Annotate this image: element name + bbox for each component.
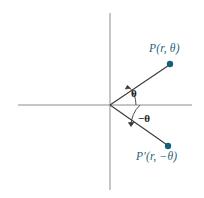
angle-label-theta-text: θ (131, 87, 137, 99)
point-label-p-prime-text: P′(r, −θ) (136, 150, 177, 162)
point-label-p: P(r, θ) (149, 43, 180, 55)
angle-arc-theta-arrowhead (125, 86, 130, 90)
point-label-p-prime: P′(r, −θ) (136, 151, 177, 163)
polar-coordinates-figure: P(r, θ) P′(r, −θ) θ −θ (0, 0, 204, 198)
angle-label-negative-theta: −θ (138, 113, 150, 124)
diagram-canvas (0, 0, 204, 198)
angle-label-theta: θ (131, 88, 137, 99)
point-marker-p (167, 61, 173, 67)
point-label-p-text: P(r, θ) (149, 42, 180, 54)
angle-label-negative-theta-text: −θ (138, 112, 150, 124)
point-marker-p-prime (165, 143, 171, 149)
ray-to-point-p (110, 66, 169, 106)
ray-to-point-p-prime (110, 105, 167, 145)
angle-arc-negative-theta-arrowhead (128, 122, 134, 126)
